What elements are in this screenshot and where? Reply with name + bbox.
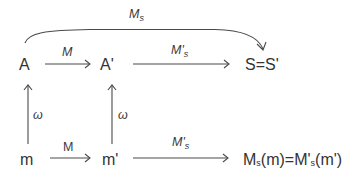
- node-m-prime: m': [102, 151, 118, 168]
- label-M-bottom: M: [63, 140, 73, 154]
- curved-arrow-A-to-S: [25, 30, 263, 50]
- node-m: m: [20, 151, 33, 168]
- label-M-top: M: [62, 45, 73, 59]
- label-Ms-prime-bottom: M's: [172, 135, 190, 151]
- node-result: Ms(m)=M's(m'): [243, 151, 342, 168]
- node-S: S=S': [245, 56, 279, 73]
- label-omega-left: ω: [33, 108, 43, 122]
- top-curve-label: Ms: [129, 7, 144, 23]
- label-omega-right: ω: [118, 108, 128, 122]
- label-Ms-prime-top: M's: [171, 43, 189, 59]
- commutative-diagram: Ms A A' S=S' M M's ω ω m m' Ms(m)=M's(m'…: [0, 0, 355, 176]
- node-A: A: [19, 56, 30, 73]
- node-A-prime: A': [100, 56, 114, 73]
